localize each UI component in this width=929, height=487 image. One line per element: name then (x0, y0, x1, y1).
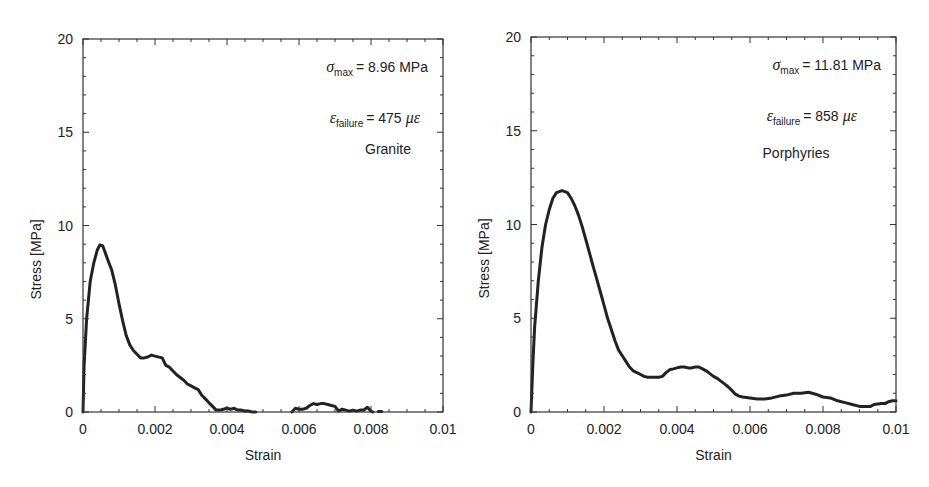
epsilon-value: = 858 (803, 108, 839, 124)
y-axis-label: Stress [MPa] (28, 219, 44, 299)
y-tick-label: 20 (57, 31, 73, 47)
x-tick-label: 0.004 (659, 421, 694, 437)
epsilon-subscript: failure (773, 116, 801, 127)
plot-frame (531, 37, 896, 412)
y-tick-labels: 05101520 (57, 31, 73, 420)
sigma-subscript: max (780, 65, 799, 76)
x-tick-label: 0.008 (805, 421, 840, 437)
figure: 00.0020.0040.0060.0080.01 05101520 Strai… (0, 0, 929, 487)
y-tick-label: 15 (57, 124, 73, 140)
x-tick-label: 0.006 (732, 421, 767, 437)
epsilon-value: = 475 (366, 110, 402, 126)
x-tick-labels: 00.0020.0040.0060.0080.01 (79, 421, 457, 437)
y-tick-labels: 05101520 (505, 29, 521, 420)
x-tick-label: 0.008 (353, 421, 388, 437)
epsilon-unit: με (405, 109, 421, 127)
y-tick-label: 5 (513, 310, 521, 326)
x-tick-label: 0.006 (281, 421, 316, 437)
sigma-max-annotation: σmax= 11.81 MPa (772, 56, 881, 76)
x-tick-label: 0 (79, 421, 87, 437)
x-axis-label: Strain (245, 447, 282, 463)
y-tick-label: 5 (65, 311, 73, 327)
sigma-subscript: max (334, 67, 353, 78)
sigma-max-annotation: σmax= 8.96 MPa (326, 58, 428, 78)
granite-curve (83, 245, 382, 412)
y-tick-label: 10 (57, 218, 73, 234)
granite-stress-strain-plot: 00.0020.0040.0060.0080.01 05101520 Strai… (28, 31, 457, 463)
stress-strain-line (531, 191, 896, 412)
material-label: Granite (365, 141, 411, 157)
sigma-value: = 8.96 MPa (356, 59, 428, 75)
y-tick-label: 0 (513, 404, 521, 420)
axis-ticks (531, 37, 896, 412)
y-tick-label: 15 (505, 123, 521, 139)
x-tick-label: 0.01 (882, 421, 909, 437)
y-tick-label: 20 (505, 29, 521, 45)
y-axis-label: Stress [MPa] (476, 218, 492, 298)
epsilon-failure-annotation: εfailure= 858με (767, 107, 858, 127)
porphyries-stress-strain-plot: 00.0020.0040.0060.0080.01 05101520 Strai… (476, 29, 910, 463)
epsilon-failure-annotation: εfailure= 475με (330, 109, 421, 129)
stress-strain-line (292, 404, 373, 412)
epsilon-unit: με (842, 107, 858, 125)
x-tick-label: 0.004 (209, 421, 244, 437)
x-tick-labels: 00.0020.0040.0060.0080.01 (527, 421, 910, 437)
material-label: Porphyries (763, 145, 830, 161)
x-tick-label: 0.01 (429, 421, 456, 437)
x-tick-label: 0.002 (137, 421, 172, 437)
y-tick-label: 0 (65, 404, 73, 420)
porphyries-curve (531, 191, 896, 412)
epsilon-subscript: failure (336, 118, 364, 129)
y-tick-label: 10 (505, 217, 521, 233)
x-axis-label: Strain (695, 447, 732, 463)
sigma-value: = 11.81 MPa (802, 57, 881, 73)
x-tick-label: 0.002 (586, 421, 621, 437)
x-tick-label: 0 (527, 421, 535, 437)
stress-strain-line (83, 245, 256, 412)
